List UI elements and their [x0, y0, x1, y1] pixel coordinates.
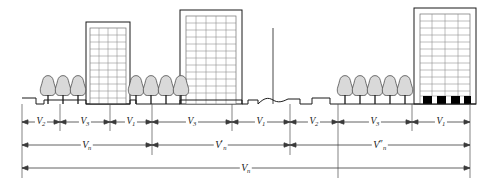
- tree-icon: [337, 76, 352, 104]
- street-section-figure: [0, 0, 492, 187]
- arrow-head: [290, 143, 296, 147]
- arrow-head: [412, 120, 418, 124]
- dimension-label-seg-4: V3: [186, 117, 198, 127]
- tree-icon: [158, 76, 173, 104]
- arrow-head: [290, 120, 296, 124]
- dimension-label-seg-8: V1: [435, 117, 447, 127]
- arrow-head: [152, 143, 158, 147]
- dimension-label-seg-2: V3: [79, 117, 91, 127]
- arrow-head: [60, 120, 66, 124]
- dimension-label-seg-1: V2: [35, 117, 47, 127]
- dimension-label-seg-6: V2: [308, 117, 320, 127]
- tree-icon: [352, 76, 367, 104]
- building-tower-left-center: [180, 10, 242, 104]
- arrow-head: [232, 120, 238, 124]
- tree-icon: [143, 76, 158, 104]
- building-tower-right: [414, 8, 476, 104]
- building-mid-rise-left: [86, 22, 130, 104]
- arrow-head: [464, 143, 470, 147]
- dimension-label-blk-3: V″n: [372, 140, 388, 151]
- arrow-head: [338, 120, 344, 124]
- tree-icon: [397, 76, 412, 104]
- tree-group-right: [337, 76, 412, 104]
- arrow-head: [22, 143, 28, 147]
- dimension-label-blk-2: V′n: [214, 140, 228, 151]
- dimension-label-seg-3: V1: [125, 117, 137, 127]
- arrow-head: [464, 120, 470, 124]
- arrow-head: [464, 166, 470, 170]
- tree-icon: [382, 76, 397, 104]
- dimension-label-seg-7: V3: [369, 117, 381, 127]
- diagram-canvas: V2V3V1V3V1V2V3V1 VnV′nV″n Vn: [0, 0, 492, 187]
- arrow-head: [22, 166, 28, 170]
- scene-group: [22, 8, 476, 104]
- arrow-head: [22, 120, 28, 124]
- dimension-label-seg-5: V1: [255, 117, 267, 127]
- dimension-label-blk-1: Vn: [81, 140, 93, 150]
- arrow-head: [152, 120, 158, 124]
- arrow-head: [110, 120, 116, 124]
- tree-icon: [367, 76, 382, 104]
- dimension-label-total-1: Vn: [240, 163, 252, 173]
